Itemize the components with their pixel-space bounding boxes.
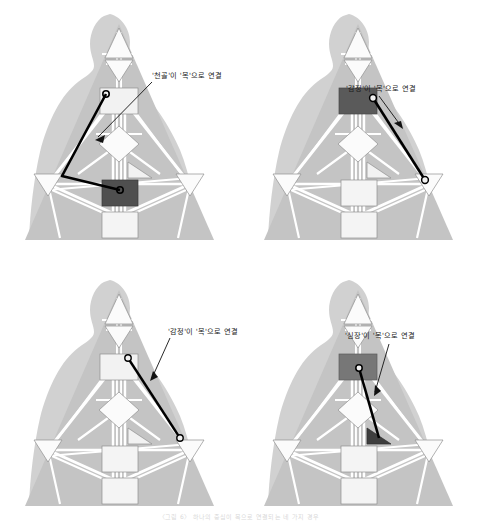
panel-bottom-right[interactable] bbox=[239, 268, 478, 518]
sacral-node bbox=[341, 180, 377, 206]
throat-node bbox=[100, 88, 138, 114]
body-graph-diagram bbox=[239, 2, 478, 252]
root-node bbox=[341, 478, 377, 504]
annotation-label-panel-1: '천골'이 '목'으로 연결 bbox=[152, 72, 222, 80]
body-graph-diagram bbox=[0, 268, 239, 518]
throat-node bbox=[100, 354, 138, 380]
root-node bbox=[341, 212, 377, 238]
annotation-label-panel-2: '감정'이 '목'으로 연결 bbox=[346, 85, 416, 93]
root-node bbox=[102, 212, 138, 238]
body-graph-diagram bbox=[239, 268, 478, 518]
root-node bbox=[102, 478, 138, 504]
annotation-label-panel-3: '감정'이 '목'으로 연결 bbox=[168, 328, 238, 336]
figure-four-body-graph-panels: '천골'이 '목'으로 연결 '감정'이 '목'으로 연결 '감정'이 '목'으… bbox=[0, 0, 478, 531]
body-graph-diagram bbox=[0, 2, 239, 252]
panel-top-right[interactable] bbox=[239, 2, 478, 252]
annotation-leader-line bbox=[150, 338, 170, 381]
sacral-node bbox=[341, 446, 377, 472]
panel-top-left[interactable] bbox=[0, 2, 239, 252]
sacral-node bbox=[102, 446, 138, 472]
panel-bottom-left[interactable] bbox=[0, 268, 239, 518]
annotation-label-panel-4: '심장'이 '목'으로 연결 bbox=[345, 332, 415, 340]
figure-caption: 〈그림 6〉 하나의 중심이 목으로 연결되는 네 가지 경우 bbox=[0, 512, 478, 521]
